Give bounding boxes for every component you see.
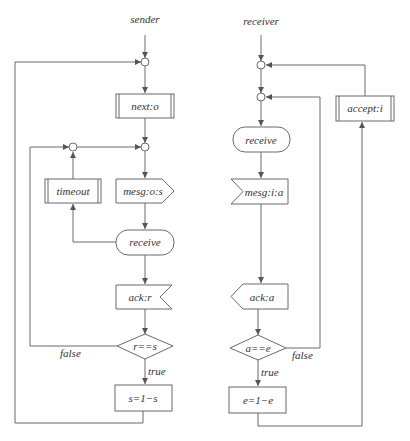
receive-message-label: mesg:i:a bbox=[245, 186, 284, 198]
sender-flow: sender next:o mesg:o:s bbox=[15, 13, 174, 423]
junction-sender-send bbox=[141, 143, 149, 151]
ack-label: ack:r bbox=[128, 291, 152, 303]
sender-decision-diamond: r==s bbox=[117, 334, 173, 359]
junction-timeout bbox=[69, 143, 77, 151]
sender-update-box: s=1−s bbox=[115, 385, 172, 411]
junction-receiver-top bbox=[257, 61, 265, 69]
sender-update-label: s=1−s bbox=[129, 392, 158, 404]
receiver-update-box: e=1−e bbox=[229, 387, 286, 413]
send-message-label: mesg:o:s bbox=[123, 185, 163, 197]
junction-sender-top bbox=[141, 58, 149, 66]
receiver-receive-box: receive bbox=[233, 127, 290, 152]
receiver-flow: receiver receive mesg:i:a ack:a a==e fal… bbox=[229, 15, 394, 426]
next-label: next:o bbox=[131, 100, 159, 112]
protocol-flowchart: sender next:o mesg:o:s bbox=[0, 0, 410, 441]
junction-receiver-loop bbox=[257, 93, 265, 101]
ack-receive-box: ack:r bbox=[116, 285, 172, 309]
accept-process-box: accept:i bbox=[336, 96, 394, 121]
ack-send-box: ack:a bbox=[231, 284, 288, 309]
receiver-update-label: e=1−e bbox=[243, 394, 273, 406]
sender-false-label: false bbox=[60, 347, 81, 359]
sender-true-label: true bbox=[148, 365, 166, 377]
send-message-box: mesg:o:s bbox=[116, 179, 174, 203]
receiver-decision-diamond: a==e bbox=[230, 335, 286, 360]
accept-label: accept:i bbox=[347, 102, 382, 114]
timeout-process-box: timeout bbox=[45, 179, 101, 203]
sender-title: sender bbox=[130, 13, 160, 25]
sender-receive-box: receive bbox=[116, 230, 174, 255]
receiver-receive-label: receive bbox=[245, 134, 276, 146]
receive-message-box: mesg:i:a bbox=[231, 179, 288, 204]
receiver-true-label: true bbox=[261, 366, 279, 378]
sender-decision-label: r==s bbox=[133, 340, 156, 352]
receiver-false-label: false bbox=[292, 349, 313, 361]
receiver-decision-label: a==e bbox=[245, 342, 270, 354]
sender-receive-label: receive bbox=[129, 236, 160, 248]
next-process-box: next:o bbox=[116, 94, 174, 118]
receiver-title: receiver bbox=[243, 15, 279, 27]
timeout-label: timeout bbox=[57, 185, 91, 197]
ack-send-label: ack:a bbox=[250, 291, 275, 303]
